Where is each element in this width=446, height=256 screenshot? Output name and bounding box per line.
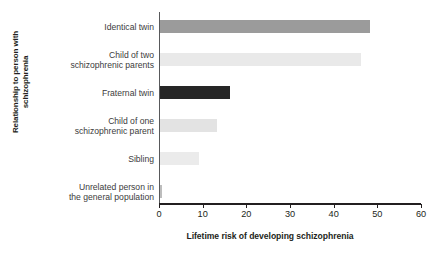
- category-label: Fraternal twin: [44, 88, 154, 98]
- bar-3: [160, 86, 230, 99]
- category-label-line: Child of two: [44, 50, 154, 60]
- x-tick-label: 0: [144, 209, 174, 219]
- category-label-list: Identical twinChild of twoschizophrenic …: [44, 12, 154, 204]
- category-label: Child of twoschizophrenic parents: [44, 50, 154, 70]
- bar-1: [160, 20, 370, 33]
- bar-6: [160, 185, 162, 198]
- x-tick-label: 40: [319, 209, 349, 219]
- bar-5: [160, 152, 199, 165]
- x-tick-label: 60: [406, 209, 436, 219]
- bar-2: [160, 53, 361, 66]
- plot-area: 0102030405060: [159, 12, 421, 203]
- category-label: Unrelated person inthe general populatio…: [44, 182, 154, 202]
- category-label-line: Identical twin: [44, 22, 154, 32]
- x-tick-mark: [290, 204, 291, 208]
- y-axis-title: Relationship to person with schizophreni…: [11, 17, 39, 147]
- category-label: Identical twin: [44, 22, 154, 32]
- category-label-line: Unrelated person in: [44, 182, 154, 192]
- bar-chart: Relationship to person with schizophreni…: [0, 0, 446, 256]
- x-tick-mark: [159, 204, 160, 208]
- x-tick-mark: [421, 204, 422, 208]
- category-label-line: the general population: [44, 192, 154, 202]
- x-tick-label: 30: [275, 209, 305, 219]
- bar-4: [160, 119, 217, 132]
- y-axis-line: [159, 12, 160, 203]
- x-tick-mark: [203, 204, 204, 208]
- category-label-line: schizophrenic parents: [44, 60, 154, 70]
- x-axis-title: Lifetime risk of developing schizophreni…: [100, 231, 440, 241]
- x-tick-label: 10: [188, 209, 218, 219]
- x-tick-mark: [334, 204, 335, 208]
- x-tick-mark: [377, 204, 378, 208]
- category-label-line: schizophrenic parent: [44, 126, 154, 136]
- category-label: Child of oneschizophrenic parent: [44, 116, 154, 136]
- category-label-line: Fraternal twin: [44, 88, 154, 98]
- x-tick-mark: [246, 204, 247, 208]
- x-tick-label: 50: [362, 209, 392, 219]
- category-label: Sibling: [44, 154, 154, 164]
- x-tick-label: 20: [231, 209, 261, 219]
- category-label-line: Sibling: [44, 154, 154, 164]
- category-label-line: Child of one: [44, 116, 154, 126]
